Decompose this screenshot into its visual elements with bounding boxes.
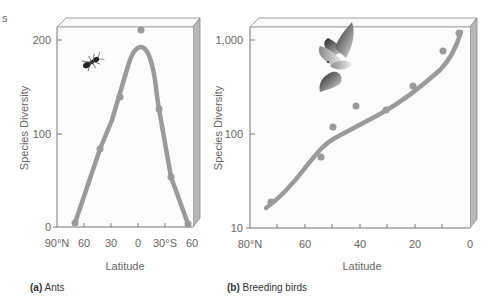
ant-ytick-200: 200 (33, 34, 51, 46)
bird-xtick: 20 (409, 238, 421, 250)
bird-caption: (b) Breeding birds (227, 282, 307, 293)
ant-xtick: 60 (78, 237, 90, 249)
ant-ytick-100: 100 (33, 128, 51, 140)
bird-panel-label: (b) (227, 282, 240, 293)
bird-xtick: 80°N (238, 238, 263, 250)
ant-ytick-0: 0 (45, 221, 51, 233)
ant-xtick: 90°N (45, 237, 70, 249)
bird-chart: 10 100 1,000 80°N 60 40 20 0 Latitude Sp… (212, 18, 477, 272)
bird-xtick: 40 (354, 238, 366, 250)
bird-ytick-1000: 1,000 (215, 34, 243, 46)
figure: 0 100 200 90°N 60 30 0 30°S 60 Latitude … (0, 0, 492, 298)
bird-xtick: 0 (467, 238, 473, 250)
ant-xtick: 0 (135, 237, 141, 249)
ant-xtick: 60 (186, 237, 198, 249)
bird-xtick: 60 (299, 238, 311, 250)
bird-ytick-100: 100 (225, 128, 243, 140)
ant-panel-label: (a) (30, 282, 42, 293)
ant-chart: 0 100 200 90°N 60 30 0 30°S 60 Latitude … (18, 18, 200, 272)
bird-caption-text: Breeding birds (243, 282, 307, 293)
bird-x-axis-label: Latitude (342, 260, 381, 272)
ant-y-axis-label: Species Diversity (18, 85, 30, 170)
bird-y-axis-label: Species Diversity (212, 85, 224, 170)
ant-caption-text: Ants (44, 282, 64, 293)
ant-x-axis-label: Latitude (105, 260, 144, 272)
bird-ytick-10: 10 (231, 222, 243, 234)
ant-xtick: 30 (105, 237, 117, 249)
ant-caption: (a) Ants (30, 282, 64, 293)
ant-xtick: 30°S (153, 237, 177, 249)
